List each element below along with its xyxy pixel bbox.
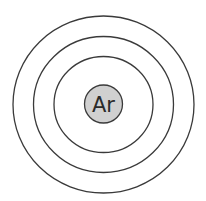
element-symbol: Ar [92,93,115,117]
atom-diagram: Ar [0,0,206,201]
